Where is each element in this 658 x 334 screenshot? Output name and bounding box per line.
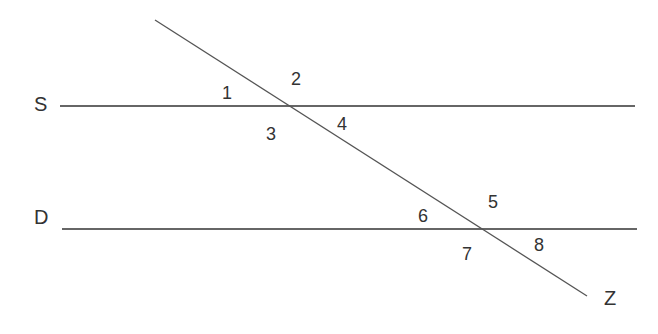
angle-5: 5 bbox=[488, 193, 498, 211]
angle-8: 8 bbox=[534, 236, 544, 254]
label-z: Z bbox=[604, 288, 616, 308]
angle-2: 2 bbox=[291, 70, 301, 88]
transversal-z bbox=[155, 20, 587, 296]
label-d: D bbox=[34, 207, 48, 227]
angle-6: 6 bbox=[418, 207, 428, 225]
angle-7: 7 bbox=[462, 245, 472, 263]
angle-1: 1 bbox=[222, 84, 232, 102]
angle-4: 4 bbox=[337, 115, 347, 133]
angle-3: 3 bbox=[266, 125, 276, 143]
label-s: S bbox=[34, 94, 47, 114]
diagram-canvas bbox=[0, 0, 658, 334]
